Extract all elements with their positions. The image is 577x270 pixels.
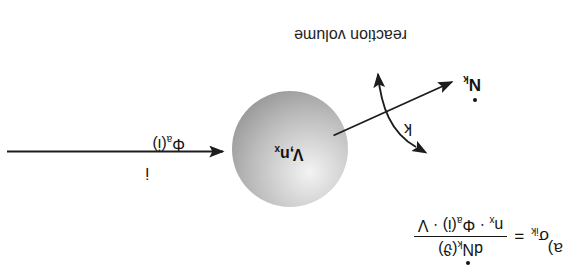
- formula-lhs-symbol: σ: [539, 228, 550, 247]
- denominator-term1: n: [494, 217, 503, 234]
- denominator-term1-subscript: x: [489, 215, 494, 226]
- flux-symbol: Φ: [172, 136, 185, 153]
- numerator-symbol-group: N: [463, 240, 475, 258]
- formula-lhs-subscript: ik: [531, 227, 538, 238]
- denominator-term2: Φ: [462, 217, 475, 234]
- reaction-rate-label: Nk: [463, 74, 481, 94]
- denominator-term2-subscript: a: [457, 215, 463, 226]
- formula-fraction: dNk(ϑ) nx · Φa(i) · V: [414, 215, 508, 258]
- denominator-dot1: ·: [480, 217, 485, 234]
- formula-lhs: σik: [531, 227, 549, 247]
- formula-denominator: nx · Φa(i) · V: [414, 215, 508, 237]
- sphere-volume-symbol: V: [294, 146, 303, 163]
- denominator-term2-argument: (i): [443, 217, 457, 234]
- reaction-rate-arrow: [334, 82, 453, 136]
- rate-symbol: N: [469, 75, 481, 94]
- sphere-density-symbol: n: [280, 146, 290, 163]
- activation-flux-label: Φa(i): [152, 134, 185, 153]
- panel-label: a): [547, 238, 563, 258]
- sphere-label: V,nx: [247, 144, 331, 163]
- flux-argument: (i): [152, 136, 166, 153]
- denominator-dot2: ·: [433, 217, 438, 234]
- numerator-prefix: d: [474, 241, 483, 258]
- formula-equals: =: [514, 227, 524, 247]
- numerator-argument: (ϑ): [438, 241, 457, 258]
- formula-numerator: dNk(ϑ): [434, 237, 487, 258]
- sphere-density-subscript: x: [275, 144, 281, 155]
- rate-symbol-group: N: [469, 74, 481, 94]
- reaction-volume-caption: reaction volume: [294, 26, 407, 44]
- flux-subscript: a: [167, 134, 173, 145]
- denominator-term3: V: [418, 217, 429, 234]
- numerator-symbol: N: [463, 241, 475, 258]
- figure-canvas: a) reaction volume V,nx Φa(i): [0, 0, 577, 270]
- sphere-label-separator: ,: [290, 146, 294, 163]
- cross-section-formula: σik = dNk(ϑ) nx · Φa(i) · V: [414, 215, 549, 258]
- rate-constant-label: k: [404, 120, 412, 138]
- rate-overdot: [473, 98, 477, 102]
- flux-index-label: i: [145, 164, 149, 182]
- numerator-overdot: [466, 261, 470, 265]
